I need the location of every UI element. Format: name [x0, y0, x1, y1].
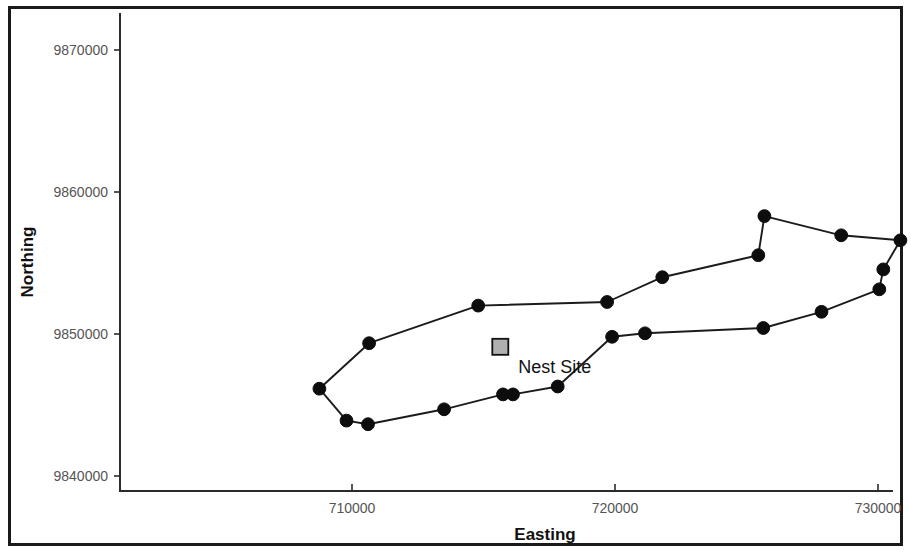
home-range-polygon: [319, 216, 900, 424]
data-point: [639, 327, 652, 340]
nest-site-annotation: Nest Site: [492, 339, 591, 377]
data-point: [815, 305, 828, 318]
data-point-group: [313, 210, 907, 431]
x-tick-label: 730000: [855, 500, 902, 516]
x-axis-ticks: 710000720000730000: [329, 484, 902, 516]
data-point: [752, 249, 765, 262]
y-tick-label: 9840000: [53, 468, 108, 484]
data-point: [758, 210, 771, 223]
y-tick-label: 9850000: [53, 326, 108, 342]
data-point: [835, 229, 848, 242]
data-point: [551, 380, 564, 393]
data-point: [362, 418, 375, 431]
y-axis-title: Northing: [18, 227, 37, 298]
data-point: [656, 271, 669, 284]
data-point: [313, 382, 326, 395]
data-point: [363, 337, 376, 350]
data-point: [606, 330, 619, 343]
data-point: [601, 296, 614, 309]
x-tick-label: 710000: [329, 500, 376, 516]
nest-site-label: Nest Site: [518, 357, 591, 377]
data-point: [873, 283, 886, 296]
home-range-scatter-plot: 9840000985000098600009870000 71000072000…: [0, 0, 911, 557]
y-tick-label: 9860000: [53, 184, 108, 200]
plot-axes: [120, 13, 893, 491]
data-point: [340, 414, 353, 427]
y-axis-ticks: 9840000985000098600009870000: [53, 42, 120, 484]
data-point: [472, 299, 485, 312]
x-axis-title: Easting: [514, 525, 575, 544]
data-point: [894, 234, 907, 247]
data-point: [757, 322, 770, 335]
x-tick-label: 720000: [592, 500, 639, 516]
data-point: [507, 388, 520, 401]
y-tick-label: 9870000: [53, 42, 108, 58]
nest-site-marker: [492, 339, 508, 355]
chart-screenshot: 9840000985000098600009870000 71000072000…: [0, 0, 911, 557]
data-point: [877, 263, 890, 276]
data-point: [438, 403, 451, 416]
